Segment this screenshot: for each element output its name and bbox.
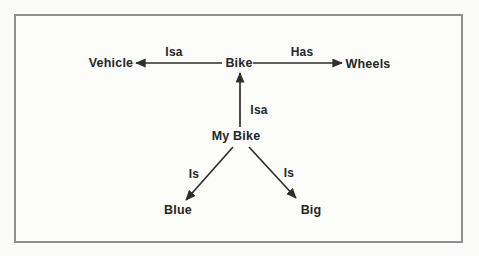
node-wheels: Wheels [346, 58, 391, 71]
node-blue: Blue [164, 204, 192, 217]
edge-label-my-bike-isa-bike: Isa [250, 104, 267, 116]
edge-label-bike-isa-vehicle: Isa [165, 46, 182, 58]
node-big: Big [301, 204, 322, 217]
edge-label-my-bike-is-big: Is [284, 167, 294, 179]
edge-label-my-bike-is-blue: Is [189, 168, 199, 180]
diagram-canvas: Vehicle Bike Wheels My Bike Blue Big Isa… [0, 0, 479, 256]
node-my-bike: My Bike [212, 130, 261, 143]
node-bike: Bike [225, 57, 252, 70]
edge-label-bike-has-wheels: Has [291, 46, 314, 58]
node-vehicle: Vehicle [89, 57, 134, 70]
